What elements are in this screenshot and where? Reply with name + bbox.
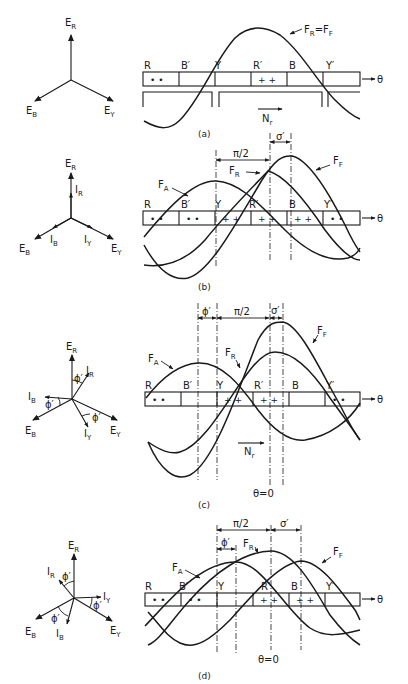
svg-text:ϕ′: ϕ′ xyxy=(62,571,72,582)
wave-label-fa: FA xyxy=(148,353,159,367)
svg-text:ϕ′: ϕ′ xyxy=(93,600,103,611)
caption-b: (b) xyxy=(198,282,211,292)
phasor-ib-arrow xyxy=(53,218,71,228)
dim-sigma: σ′ xyxy=(271,305,280,316)
coil-band-b: • • • • + + + + + + • • R B′ Y R′ B Y′ θ xyxy=(143,199,383,225)
theta-zero-label: θ=0 xyxy=(258,654,279,665)
coil-band-d: • • • • + + + + R B′ Y R′ B Y′ θ xyxy=(145,581,383,606)
svg-text:IR: IR xyxy=(47,566,55,580)
svg-text:Y: Y xyxy=(217,581,225,592)
caption-a: (a) xyxy=(198,129,211,139)
svg-text:B′: B′ xyxy=(183,380,193,391)
coil-label-y-prime: Y′ xyxy=(325,60,335,71)
wave-ff xyxy=(144,156,360,279)
label-ib: IB xyxy=(50,234,58,248)
svg-text:• •: • • xyxy=(152,595,165,605)
label-eb: EB xyxy=(19,243,30,257)
wave-label-fr: FR xyxy=(243,538,254,552)
svg-text:ϕ′: ϕ′ xyxy=(45,399,55,410)
theta-zero-label: θ=0 xyxy=(253,488,274,499)
svg-text:EB: EB xyxy=(25,425,36,439)
label-ey: EY xyxy=(104,105,115,119)
svg-text:B: B xyxy=(292,380,299,391)
svg-text:+ +: + + xyxy=(260,595,278,605)
coil-label-b-prime: B′ xyxy=(181,60,191,71)
svg-text:ER: ER xyxy=(66,341,77,355)
dim-pi-half: π/2 xyxy=(233,518,249,529)
label-ir: IR xyxy=(75,184,83,198)
phi-label: ϕ′ xyxy=(74,373,84,384)
svg-text:ER: ER xyxy=(68,540,79,554)
svg-text:• •: • • xyxy=(152,395,165,405)
wave-label-ff: FF xyxy=(317,325,327,339)
label-er: ER xyxy=(65,158,76,172)
svg-text:+ +: + + xyxy=(294,214,312,224)
wave-fr-ff xyxy=(144,28,360,128)
svg-text:EB: EB xyxy=(25,626,36,640)
phasor-ir-arrow xyxy=(59,580,74,598)
dim-phi: ϕ′ xyxy=(202,306,212,317)
phasor-diagram-a: ER EB EY xyxy=(26,17,115,119)
svg-text:B: B xyxy=(289,199,296,210)
wave-label-fa: FA xyxy=(158,179,169,193)
svg-text:R: R xyxy=(144,199,151,210)
dim-sigma: σ′ xyxy=(276,131,285,142)
phasor-diagram-d: ER IR ϕ′ IY ϕ′ ϕ′ EB IB EY xyxy=(25,540,121,642)
wave-label-fr: FR xyxy=(225,347,236,361)
rotation-label: Nr xyxy=(262,113,272,127)
phasor-diagram-c: ER IR ϕ′ IB ϕ′ ϕ′ EB IY EY xyxy=(25,341,121,442)
rotor-poles-a: Nr xyxy=(143,92,360,127)
svg-text:EY: EY xyxy=(110,425,121,439)
wave-label-fr: FR xyxy=(229,165,240,179)
wave-fr xyxy=(144,171,360,266)
wave-fr xyxy=(148,551,360,645)
svg-text:+ +: + + xyxy=(260,395,278,405)
coil-mark-r-prime: + + xyxy=(258,75,276,85)
svg-text:R: R xyxy=(145,581,152,592)
coil-label-b: B xyxy=(289,60,296,71)
panel-c: ER IR ϕ′ IB ϕ′ ϕ′ EB IY EY • • + + + + •… xyxy=(25,303,383,510)
dim-pi-half: π/2 xyxy=(233,148,249,159)
label-eb: EB xyxy=(26,105,37,119)
figure-canvas: ER EB EY • • + + R B′ Y R′ B Y′ θ xyxy=(0,0,408,684)
rotation-label: Nr xyxy=(244,446,254,460)
phasor-ey-arrow xyxy=(71,80,113,101)
label-er: ER xyxy=(65,17,76,31)
svg-text:IY: IY xyxy=(103,591,111,605)
svg-text:IB: IB xyxy=(56,628,64,642)
svg-text:R: R xyxy=(145,380,152,391)
wave-label-ff: FF xyxy=(333,155,343,169)
svg-text:B: B xyxy=(291,581,298,592)
svg-text:IB: IB xyxy=(28,391,36,405)
svg-text:IY: IY xyxy=(84,428,92,442)
phasor-iy-arrow xyxy=(71,218,92,228)
svg-text:IR: IR xyxy=(86,365,94,379)
caption-c: (c) xyxy=(198,500,210,510)
phasor-eb-arrow xyxy=(35,80,71,101)
coil-label-r-prime: R′ xyxy=(253,60,263,71)
svg-text:θ: θ xyxy=(377,594,383,605)
wave-label-ff: FF xyxy=(333,546,343,560)
theta-label: θ xyxy=(377,74,383,85)
panel-a: ER EB EY • • + + R B′ Y R′ B Y′ θ xyxy=(26,17,383,139)
label-iy: IY xyxy=(84,234,92,248)
panel-b: ER IR EB IB IY EY • • • • + + + + + + • … xyxy=(19,131,383,292)
svg-text:+ +: + + xyxy=(296,595,314,605)
coil-mark-r: • • xyxy=(150,75,163,85)
svg-text:B′: B′ xyxy=(181,199,191,210)
label-ey: EY xyxy=(111,243,122,257)
svg-text:R′: R′ xyxy=(254,380,264,391)
phasor-diagram-b: ER IR EB IB IY EY xyxy=(19,158,122,257)
dim-phi: ϕ′ xyxy=(221,537,231,548)
phasor-iy-arrow xyxy=(74,597,101,598)
svg-text:ϕ′: ϕ′ xyxy=(51,613,61,624)
svg-text:• •: • • xyxy=(186,214,199,224)
dim-pi-half: π/2 xyxy=(234,306,250,317)
coil-label-r: R xyxy=(144,60,151,71)
wave-label-fr-ff: FR=FF xyxy=(304,24,333,38)
coil-band-c: • • + + + + • • R B′ Y R′ B Y′ θ xyxy=(145,380,383,406)
panel-d: ER IR ϕ′ IY ϕ′ ϕ′ EB IB EY • • • • + + +… xyxy=(25,518,383,681)
coil-band-a: • • + + R B′ Y R′ B Y′ θ xyxy=(143,60,383,86)
svg-text:ϕ′: ϕ′ xyxy=(92,412,102,423)
wave-label-fa: FA xyxy=(172,562,183,576)
